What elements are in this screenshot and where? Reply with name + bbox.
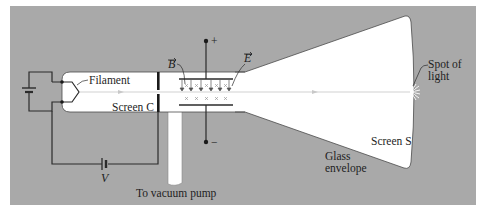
vacuum-pump-tube <box>168 110 182 185</box>
spot-label-2: light <box>428 70 450 83</box>
minus-label: − <box>211 136 218 148</box>
vacuum-pump-label: To vacuum pump <box>136 187 217 200</box>
filament-node-bottom <box>60 100 64 104</box>
plus-terminal <box>204 39 208 43</box>
minus-terminal <box>204 140 208 144</box>
crt-diagram: + − B E V Filament Screen C To vacuum pu… <box>0 0 491 215</box>
screen-c-label: Screen C <box>112 101 154 113</box>
screen-c <box>157 72 160 90</box>
glass-envelope-label-2: envelope <box>325 162 367 175</box>
filament-node-top <box>60 80 64 84</box>
plus-label: + <box>211 35 218 47</box>
screen-c-lower <box>157 94 160 112</box>
glass-envelope-label-1: Glass <box>325 150 351 162</box>
filament-label: Filament <box>89 74 131 86</box>
screen-s-label: Screen S <box>371 135 412 147</box>
